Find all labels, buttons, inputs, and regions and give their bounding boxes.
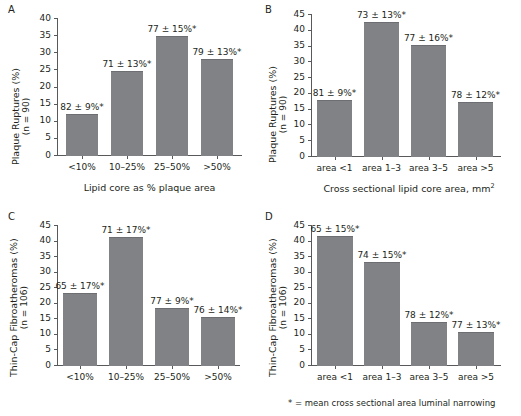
panel-b-x-axis-title-text: Cross sectional lipid core area, mm	[323, 183, 490, 194]
y-tick	[54, 155, 57, 156]
y-tick-label: 15	[279, 104, 305, 113]
x-category-label: 25–50%	[154, 162, 190, 172]
panel-d-y-axis-title-line1: Thin-Cap Fibroatheromas (%)	[267, 238, 278, 377]
y-tick-label: 25	[279, 73, 305, 82]
x-category-label: area >5	[457, 163, 493, 173]
figure-footnote: * = mean cross sectional area luminal na…	[288, 398, 495, 408]
x-category-label: area 1–3	[363, 372, 402, 382]
y-tick	[54, 104, 57, 105]
y-tick-label: 0	[279, 361, 305, 370]
y-tick-label: 20	[279, 88, 305, 97]
x-category-label: area <1	[316, 163, 352, 173]
x-tick	[172, 156, 173, 159]
x-category-label: area >5	[458, 372, 494, 382]
y-tick	[54, 18, 57, 19]
y-tick	[308, 256, 311, 257]
y-tick-label: 20	[279, 298, 305, 307]
y-tick	[308, 140, 311, 141]
y-tick	[308, 14, 311, 15]
bar-value-annotation: 65 ± 17%*	[55, 282, 104, 291]
y-tick-label: 15	[25, 99, 51, 108]
y-tick	[54, 272, 57, 273]
y-tick	[308, 241, 311, 242]
bar	[63, 293, 97, 366]
panel-c-plot-area: 05101520253035404565 ± 17%*<10%71 ± 17%*…	[57, 225, 240, 365]
y-tick	[54, 35, 57, 36]
bar	[201, 59, 233, 156]
x-tick	[335, 157, 336, 160]
bar	[109, 237, 143, 366]
y-tick	[54, 87, 57, 88]
x-tick	[429, 366, 430, 369]
y-tick	[54, 318, 57, 319]
bar	[411, 322, 447, 366]
x-tick	[335, 366, 336, 369]
y-tick-label: 5	[25, 133, 51, 142]
y-tick-label: 10	[25, 329, 51, 338]
panel-c-letter: C	[8, 211, 15, 222]
panel-a-letter: A	[8, 4, 15, 15]
x-tick	[127, 156, 128, 159]
x-category-label: >50%	[203, 162, 231, 172]
x-category-label: <10%	[68, 162, 96, 172]
y-tick-label: 35	[279, 252, 305, 261]
y-tick	[308, 109, 311, 110]
x-category-label: 25–50%	[154, 372, 190, 382]
bar-value-annotation: 65 ± 15%*	[310, 225, 359, 234]
y-tick-label: 5	[279, 345, 305, 354]
bar-value-annotation: 77 ± 9%*	[150, 297, 194, 306]
y-tick	[308, 77, 311, 78]
panel-a-y-axis-title-line1: Plaque Ruptures (%)	[10, 68, 21, 165]
bar	[317, 236, 353, 366]
y-tick-label: 20	[25, 298, 51, 307]
panel-a-x-axis-title: Lipid core as % plaque area	[57, 182, 242, 193]
y-tick-label: 40	[25, 14, 51, 23]
y-tick-label: 0	[279, 152, 305, 161]
panel-d-plot-area: 05101520253035404565 ± 15%*area <174 ± 1…	[311, 225, 501, 365]
bar-value-annotation: 74 ± 15%*	[357, 251, 406, 260]
panel-b-y-axis	[311, 14, 312, 156]
y-tick	[54, 349, 57, 350]
x-tick	[476, 157, 477, 160]
panel-a: A Plaque Ruptures (%) (n = 90) 051015202…	[0, 0, 260, 208]
bar	[66, 114, 98, 156]
y-tick	[308, 61, 311, 62]
y-tick-label: 40	[279, 25, 305, 34]
y-tick-label: 35	[279, 41, 305, 50]
y-tick-label: 30	[279, 57, 305, 66]
bar	[364, 22, 399, 157]
panel-b-x-axis-title: Cross sectional lipid core area, mm2	[309, 182, 509, 194]
bar-value-annotation: 77 ± 15%*	[147, 25, 196, 34]
y-tick-label: 30	[279, 267, 305, 276]
bar	[458, 102, 493, 157]
x-tick	[382, 157, 383, 160]
x-tick	[476, 366, 477, 369]
bar	[364, 262, 400, 366]
y-tick-label: 35	[25, 31, 51, 40]
bar-value-annotation: 79 ± 13%*	[192, 48, 241, 57]
y-tick	[54, 334, 57, 335]
y-tick	[54, 121, 57, 122]
y-tick-label: 10	[279, 120, 305, 129]
y-tick	[54, 138, 57, 139]
bar-value-annotation: 78 ± 12%*	[451, 91, 500, 100]
bar	[155, 308, 189, 366]
bar	[458, 332, 494, 366]
x-tick	[172, 366, 173, 369]
x-category-label: >50%	[204, 372, 232, 382]
x-tick	[382, 366, 383, 369]
y-tick	[308, 30, 311, 31]
panel-b-x-axis-title-superscript: 2	[490, 182, 494, 190]
y-tick	[54, 241, 57, 242]
y-tick	[54, 225, 57, 226]
bar-value-annotation: 71 ± 17%*	[101, 226, 150, 235]
x-tick	[126, 366, 127, 369]
x-tick	[217, 156, 218, 159]
y-tick	[308, 318, 311, 319]
panel-c: C Thin-Cap Fibroatheromas (%) (n = 106) …	[0, 205, 260, 413]
panel-a-y-axis	[57, 18, 58, 155]
bar-value-annotation: 76 ± 14%*	[193, 306, 242, 315]
y-tick	[54, 69, 57, 70]
x-category-label: <10%	[66, 372, 94, 382]
y-tick-label: 0	[25, 151, 51, 160]
